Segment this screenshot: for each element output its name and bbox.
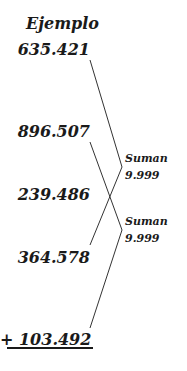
connector-lines xyxy=(0,0,187,371)
